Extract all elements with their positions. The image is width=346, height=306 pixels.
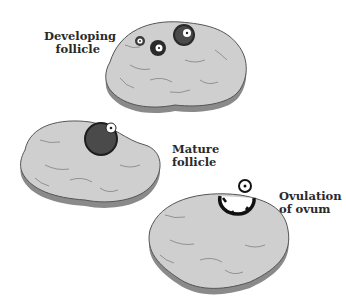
ovary-ovulation	[149, 180, 289, 294]
released-ovum	[239, 180, 251, 192]
label-mature-follicle: Mature follicle	[172, 143, 219, 169]
developing-follicle-small	[135, 36, 145, 46]
label-line: follicle	[172, 156, 219, 169]
label-ovulation-of-ovum: Ovulation of ovum	[279, 190, 342, 216]
label-line: of ovum	[279, 203, 342, 216]
ruptured-follicle	[220, 196, 254, 214]
label-line: follicle	[44, 43, 100, 56]
label-developing-follicle: Developing follicle	[44, 30, 100, 56]
ovary-developing	[106, 22, 247, 113]
ovary-mature	[21, 121, 161, 208]
developing-follicle-medium	[150, 40, 166, 56]
follicle-diagram: Developing follicle Mature follicle Ovul…	[0, 0, 346, 306]
mature-follicle	[84, 122, 118, 156]
developing-follicle-large	[173, 24, 195, 46]
